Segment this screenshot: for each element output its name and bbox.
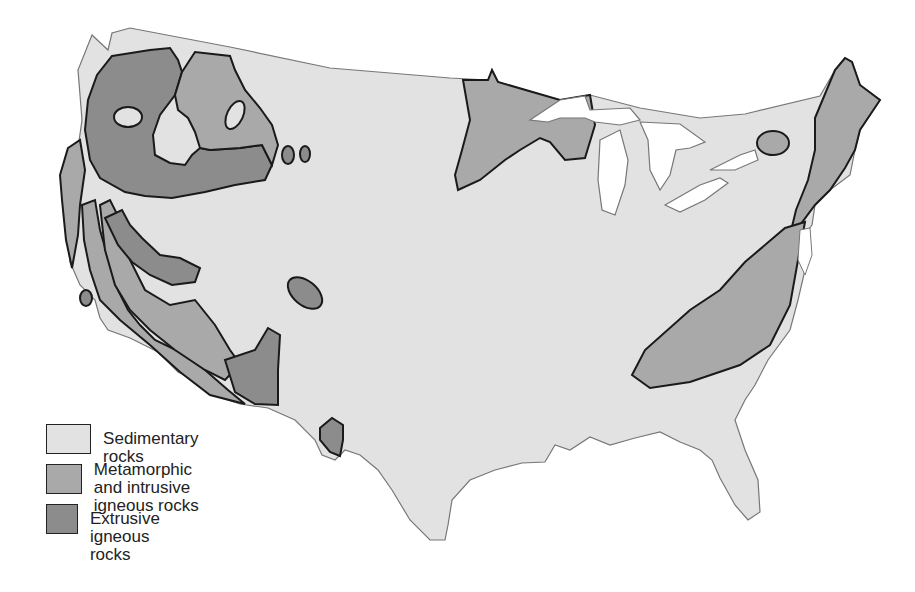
- metamorphic-adirondacks: [757, 131, 789, 155]
- legend-label: Extrusive igneous rocks: [90, 510, 186, 564]
- extrusive-patch: [300, 146, 310, 162]
- swatch-extrusive: [46, 504, 78, 534]
- sedimentary-inlier: [114, 107, 142, 127]
- extrusive-patch: [80, 290, 92, 306]
- extrusive-patch: [282, 146, 294, 164]
- legend-item-extrusive: Extrusive igneous rocks: [46, 504, 186, 564]
- swatch-sedimentary: [46, 424, 91, 454]
- swatch-metamorphic: [46, 464, 82, 494]
